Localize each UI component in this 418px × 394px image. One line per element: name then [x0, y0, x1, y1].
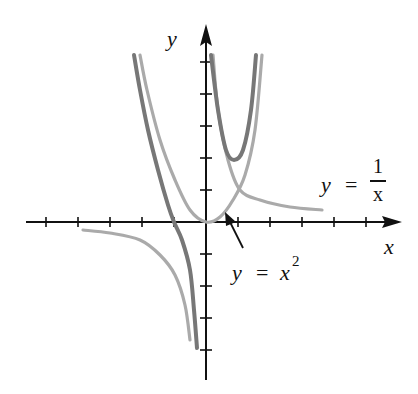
recip-label-eq: = [345, 174, 357, 196]
annotation-arrow [225, 212, 243, 248]
square-label-base: x [280, 262, 290, 284]
recip-label-numerator: 1 [369, 156, 387, 176]
x-axis-arrow-icon [382, 216, 402, 228]
x-axis-label: x [384, 236, 394, 258]
annotation-arrowhead-icon [225, 212, 236, 226]
recip-label-lhs: y [321, 174, 331, 196]
curve-y-x-2-1-x-right-branch- [211, 55, 256, 160]
curve-y-x-2 [140, 55, 262, 222]
chart-canvas [0, 0, 418, 394]
fraction-bar [370, 180, 386, 182]
curves [83, 55, 322, 348]
y-axis-label: y [167, 28, 177, 50]
square-label-exponent: 2 [292, 254, 300, 269]
square-label-eq: = [256, 262, 268, 284]
curve-y-x-2-1-x-left-branch- [134, 55, 197, 348]
curve-y-1-x-left-branch- [83, 230, 190, 340]
curve-y-1-x-right-branch- [213, 55, 322, 210]
recip-label-denominator: x [369, 184, 387, 204]
square-label-lhs: y [232, 262, 242, 284]
